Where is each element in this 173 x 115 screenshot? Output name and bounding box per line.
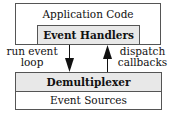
event-sources-box: Event Sources [15, 91, 162, 110]
demultiplexer-box: Demultiplexer [15, 72, 162, 92]
up-arrow-icon [103, 45, 112, 72]
down-arrow-icon [65, 45, 74, 72]
